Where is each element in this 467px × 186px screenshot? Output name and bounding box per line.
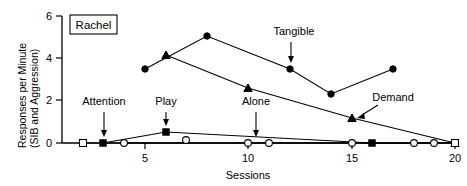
data-point — [328, 91, 334, 97]
annotation-alone: Alone — [242, 95, 270, 137]
arrowhead-icon — [253, 130, 259, 137]
y-tick-label-0: 0 — [46, 137, 52, 149]
data-point — [266, 140, 273, 147]
annotation-attention-label: Attention — [82, 95, 125, 107]
x-axis-label: Sessions — [226, 169, 271, 181]
x-tick-label-5: 5 — [142, 152, 148, 164]
data-point — [163, 129, 169, 135]
annotation-demand-label: Demand — [372, 91, 414, 103]
y-axis-ticks: 6 4 2 0 — [46, 10, 62, 149]
annotation-play: Play — [155, 95, 177, 126]
annotation-demand-arrow — [362, 105, 378, 115]
functional-analysis-chart: Responses per Minute (SIB and Aggression… — [0, 0, 467, 186]
series-tangible — [142, 33, 396, 97]
data-point — [244, 84, 252, 92]
data-point — [411, 140, 418, 147]
x-tick-label-10: 10 — [242, 152, 254, 164]
series-play-line — [103, 132, 455, 143]
y-tick-label-6: 6 — [46, 10, 52, 22]
y-axis-label: Responses per Minute (SIB and Aggression… — [16, 43, 40, 148]
series-demand — [162, 51, 459, 147]
data-point — [245, 140, 252, 147]
data-point — [204, 33, 210, 39]
data-point — [162, 51, 170, 59]
data-point — [431, 140, 438, 147]
data-point — [287, 66, 293, 72]
chart-svg: Responses per Minute (SIB and Aggression… — [0, 0, 467, 186]
data-point — [121, 140, 128, 147]
data-point — [349, 140, 356, 147]
subject-label-text: Rachel — [76, 19, 112, 31]
y-axis-label-line2: (SIB and Aggression) — [28, 49, 40, 148]
annotation-alone-label: Alone — [242, 95, 270, 107]
data-point — [348, 114, 356, 122]
y-tick-label-2: 2 — [46, 94, 52, 106]
y-axis-label-line1: Responses per Minute — [16, 43, 28, 148]
arrowhead-icon — [163, 119, 169, 126]
y-tick-label-4: 4 — [46, 52, 52, 64]
annotation-tangible: Tangible — [274, 25, 315, 63]
data-point — [452, 140, 459, 147]
annotation-demand: Demand — [357, 91, 414, 119]
data-point — [142, 66, 148, 72]
data-point — [183, 137, 190, 144]
arrowhead-icon — [101, 130, 107, 137]
series-tangible-line — [145, 36, 393, 94]
data-point — [390, 66, 396, 72]
arrowhead-icon — [288, 56, 294, 63]
arrowhead-icon — [357, 113, 365, 119]
data-point — [80, 140, 87, 147]
x-tick-label-20: 20 — [449, 152, 461, 164]
subject-label-box: Rachel — [70, 15, 117, 34]
annotation-tangible-label: Tangible — [274, 25, 315, 37]
x-tick-label-15: 15 — [346, 152, 358, 164]
annotation-attention: Attention — [82, 95, 125, 137]
annotation-play-label: Play — [155, 95, 177, 107]
